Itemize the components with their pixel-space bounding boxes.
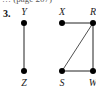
vertex-X	[59, 20, 65, 26]
vertex-R	[90, 20, 96, 26]
vertex-label-Y: Y	[21, 6, 28, 17]
graph-diagram: YZXRSW	[0, 0, 96, 92]
vertex-label-R: R	[89, 6, 96, 17]
vertex-label-S: S	[60, 77, 65, 88]
vertex-label-Z: Z	[21, 77, 27, 88]
vertex-Z	[21, 68, 27, 74]
vertex-label-X: X	[58, 6, 66, 17]
vertex-label-W: W	[89, 77, 96, 88]
vertex-Y	[21, 20, 27, 26]
vertex-W	[90, 68, 96, 74]
edge-R-S	[62, 23, 93, 71]
vertex-S	[59, 68, 65, 74]
